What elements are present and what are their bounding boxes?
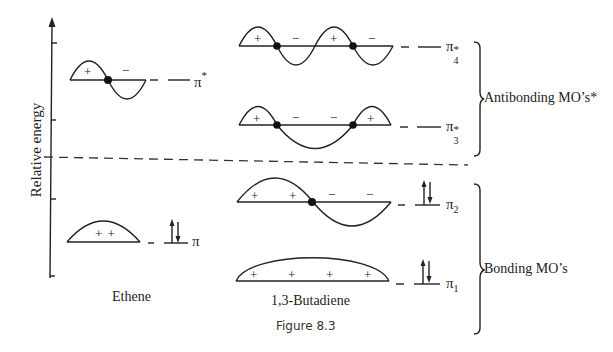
molecule-label-butadiene: 1,3-Butadiene xyxy=(271,293,350,309)
phase-sign: + xyxy=(254,31,261,47)
butadiene-pi4-star-orbital xyxy=(239,27,441,65)
bonding-group-label: Bonding MO’s xyxy=(484,261,568,277)
antibonding-group-label: Antibonding MO’s* xyxy=(484,90,597,106)
phase-sign: + xyxy=(289,188,296,204)
phase-sign: + xyxy=(253,111,260,127)
orbital-label-ethene-pi: π xyxy=(192,233,200,250)
phase-sign: − xyxy=(366,187,373,203)
phase-sign: − xyxy=(122,63,129,79)
pi-symbol: π xyxy=(446,118,454,134)
phase-sign: + xyxy=(84,64,91,80)
phase-sign: + xyxy=(364,267,371,283)
phase-sign: + xyxy=(367,111,374,127)
butadiene-pi1-orbital xyxy=(236,258,440,284)
butadiene-pi2-orbital xyxy=(237,178,440,226)
pi-symbol: π xyxy=(446,38,454,54)
phase-sign: − xyxy=(368,31,375,47)
star-superscript: * xyxy=(454,123,460,135)
phase-sign: + xyxy=(250,267,257,283)
subscript: 1 xyxy=(454,283,459,294)
y-axis xyxy=(49,17,58,278)
y-axis-line xyxy=(50,22,52,278)
bonding-antibonding-divider xyxy=(44,157,468,165)
mo-diagram: Relative energy + − π* + + π Ethene + − … xyxy=(0,0,613,352)
pi-symbol: π xyxy=(446,275,454,291)
node-dot xyxy=(273,42,281,50)
arrow-head xyxy=(170,219,175,226)
figure-caption: Figure 8.3 xyxy=(276,319,336,333)
subscript: 4 xyxy=(454,55,459,66)
butadiene-pi3-star-orbital xyxy=(239,107,441,149)
bonding-brace xyxy=(474,184,484,334)
lobe-negative xyxy=(108,80,146,99)
orbital-label-pi4-star: π*4 xyxy=(446,38,462,55)
phase-sign: − xyxy=(292,110,299,126)
node-dot xyxy=(308,198,316,206)
node-dot xyxy=(104,76,112,84)
phase-sign: + xyxy=(326,267,333,283)
pi-symbol: π xyxy=(446,196,454,212)
phase-sign: + xyxy=(330,31,337,47)
orbital-label-pi2: π2 xyxy=(446,196,459,215)
molecule-label-ethene: Ethene xyxy=(112,289,151,305)
arrow-head xyxy=(428,197,433,204)
antibonding-brace xyxy=(474,42,484,156)
arrow-head xyxy=(421,259,426,266)
arrow-head xyxy=(427,276,432,283)
y-axis-arrow-icon xyxy=(49,17,56,27)
arrow-head xyxy=(176,236,181,243)
ethene-pi-orbital xyxy=(67,219,188,243)
arrow-head xyxy=(422,180,427,187)
phase-sign: + xyxy=(288,267,295,283)
subscript: 2 xyxy=(454,204,459,215)
pi-symbol: π xyxy=(194,74,202,90)
node-dot xyxy=(349,121,357,129)
phase-sign: − xyxy=(328,187,335,203)
phase-sign: + xyxy=(251,188,258,204)
node-dot xyxy=(349,42,357,50)
phase-sign: + + xyxy=(95,226,116,242)
subscript: 3 xyxy=(454,135,459,146)
orbital-label-ethene-pi-star: π* xyxy=(194,71,207,91)
star-superscript: * xyxy=(202,69,208,81)
orbital-label-pi3-star: π*3 xyxy=(446,118,462,135)
phase-sign: − xyxy=(330,110,337,126)
star-superscript: * xyxy=(454,43,460,55)
orbital-label-pi1: π1 xyxy=(446,275,459,294)
y-axis-label: Relative energy xyxy=(28,90,45,210)
node-dot xyxy=(273,121,281,129)
phase-sign: − xyxy=(292,31,299,47)
